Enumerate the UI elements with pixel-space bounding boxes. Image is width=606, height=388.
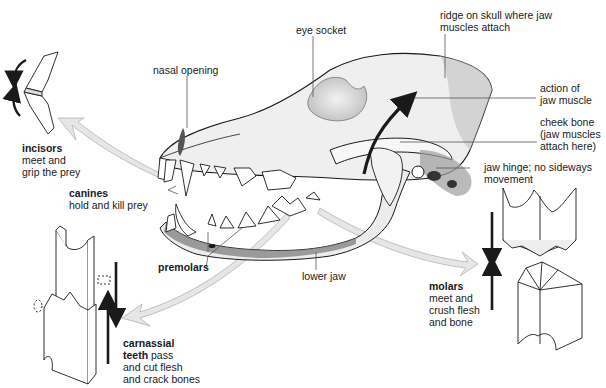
carnassial-model	[34, 226, 110, 384]
label-ridge-line1: ridge on skull where jaw	[440, 9, 552, 21]
label-premolars: premolars	[158, 261, 209, 273]
label-carnassial: carnassial teeth pass and cut flesh and …	[123, 337, 200, 385]
skull-diagram: eye socket ridge on skull where jaw musc…	[0, 0, 606, 388]
label-carnassial-pass: pass	[148, 349, 173, 361]
label-incisors: incisors meet and grip the prey	[22, 142, 80, 178]
label-carnassial-title2: teeth	[123, 349, 148, 361]
label-carnassial-line2: and cut flesh	[123, 361, 200, 373]
label-eye-socket: eye socket	[296, 24, 346, 36]
label-cheek-bone: cheek bone (jaw muscles attach here)	[540, 116, 601, 152]
label-canines: canines hold and kill prey	[69, 187, 148, 211]
label-molars-line2: crush flesh	[429, 304, 480, 316]
label-action-line2: jaw muscle	[540, 94, 592, 106]
label-incisors-line1: meet and	[22, 154, 80, 166]
label-jaw-hinge: jaw hinge; no sideways movement	[484, 161, 592, 185]
label-nasal-opening: nasal opening	[153, 64, 218, 76]
label-action-of-jaw-muscle: action of jaw muscle	[540, 82, 592, 106]
label-incisors-title: incisors	[22, 142, 62, 154]
label-hinge-line1: jaw hinge; no sideways	[484, 161, 592, 173]
pointer-arrow-molars	[318, 208, 478, 276]
label-cheek-line3: attach here)	[540, 140, 601, 152]
label-lower-jaw: lower jaw	[302, 270, 346, 282]
label-canines-title: canines	[69, 187, 108, 199]
label-ridge-line2: muscles attach	[440, 21, 552, 33]
label-canines-line: hold and kill prey	[69, 199, 148, 211]
label-molars-title: molars	[429, 280, 463, 292]
label-molars-line1: meet and	[429, 292, 480, 304]
label-cheek-line2: (jaw muscles	[540, 128, 601, 140]
label-incisors-line2: grip the prey	[22, 166, 80, 178]
label-carnassial-line3: and crack bones	[123, 373, 200, 385]
label-carnassial-title: carnassial	[123, 337, 174, 349]
label-cheek-line1: cheek bone	[540, 116, 601, 128]
lower-teeth	[166, 192, 320, 236]
incisor-arrow-up-icon	[13, 92, 20, 116]
label-ridge: ridge on skull where jaw muscles attach	[440, 9, 552, 33]
label-hinge-line2: movement	[484, 173, 592, 185]
incisor-arrow-down-icon	[14, 60, 26, 80]
molar-model	[503, 188, 582, 350]
incisor-model	[24, 52, 58, 134]
label-molars: molars meet and crush flesh and bone	[429, 280, 480, 328]
label-molars-line3: and bone	[429, 316, 480, 328]
label-action-line1: action of	[540, 82, 592, 94]
